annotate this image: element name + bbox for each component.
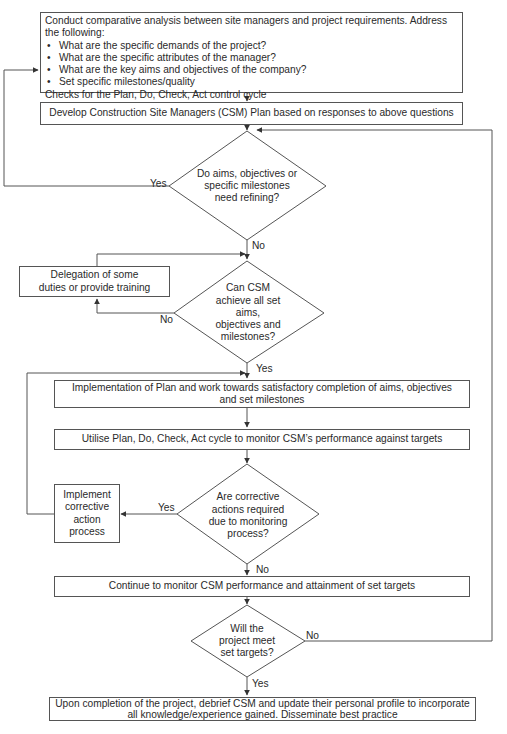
label-achieve-yes: Yes [256,363,273,375]
label-corrective-no: No [256,564,269,576]
decision-achieve-text: Can CSM achieve all set aims, objectives… [212,287,284,339]
corrective-action-box: Implement corrective action process [54,484,120,543]
start-intro: Conduct comparative analysis between sit… [45,15,458,40]
label-targets-no: No [306,630,319,642]
arrow-achieve-no [97,299,174,313]
arrow-delegation-loop [97,254,245,266]
bullet-item: What are the specific demands of the pro… [59,40,458,52]
decision-targets-text: Will the project meet set targets? [216,622,278,660]
continue-monitor-box: Continue to monitor CSM performance and … [54,576,470,597]
final-debrief-box: Upon completion of the project, debrief … [49,697,476,721]
bullet-item: What are the specific attributes of the … [59,52,458,64]
label-refine-no: No [252,240,265,252]
utilise-pdca-box: Utilise Plan, Do, Check, Act cycle to mo… [54,429,470,450]
decision-corrective-text: Are corrective actions required due to m… [205,490,291,542]
decision-refine-text: Do aims, objectives or specific mileston… [195,166,299,206]
label-corrective-yes: Yes [158,502,175,514]
label-targets-yes: Yes [252,678,269,690]
start-analysis-box: Conduct comparative analysis between sit… [40,12,463,93]
start-footer: Checks for the Plan, Do, Check, Act cont… [45,89,458,101]
flowchart-canvas: Conduct comparative analysis between sit… [0,0,507,734]
develop-plan-box: Develop Construction Site Managers (CSM)… [40,102,463,125]
implementation-box: Implementation of Plan and work towards … [54,380,470,408]
delegation-box: Delegation of some duties or provide tra… [19,266,170,297]
label-achieve-no: No [160,314,173,326]
label-refine-yes: Yes [150,178,167,190]
bullet-item: What are the key aims and objectives of … [59,64,458,76]
bullet-item: Set specific milestones/quality [59,76,458,88]
start-bullets: What are the specific demands of the pro… [45,40,458,89]
